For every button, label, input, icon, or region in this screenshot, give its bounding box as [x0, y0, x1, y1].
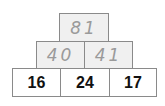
pyramid-bottom-cell-left: 16: [12, 68, 61, 97]
pyramid-middle-cell-right: 41: [84, 41, 133, 69]
pyramid-bottom-cell-middle: 24: [60, 68, 110, 97]
pyramid-middle-cell-left: 40: [36, 41, 85, 69]
pyramid-top-cell: 81: [59, 13, 109, 42]
pyramid-bottom-cell-right: 17: [109, 68, 157, 97]
